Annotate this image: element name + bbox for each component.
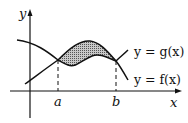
x-axis-label: x bbox=[170, 95, 178, 110]
x-axis-arrow-icon bbox=[175, 89, 182, 94]
area-between-curves-diagram: y x a b y = g(x) y = f(x) bbox=[0, 0, 188, 123]
shaded-region bbox=[58, 41, 116, 66]
point-b-label: b bbox=[112, 94, 120, 109]
point-a-label: a bbox=[54, 94, 62, 109]
curve-g-label: y = g(x) bbox=[133, 44, 184, 59]
y-axis-label: y bbox=[18, 6, 27, 21]
curve-f-label: y = f(x) bbox=[133, 72, 181, 87]
y-axis-arrow-icon bbox=[28, 9, 33, 16]
